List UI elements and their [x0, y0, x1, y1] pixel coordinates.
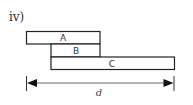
block-c-label: C [109, 59, 115, 69]
dimension-label: d [96, 87, 102, 98]
block-b: B [51, 44, 100, 57]
block-a: A [27, 32, 101, 45]
arrow-left-icon [27, 79, 37, 87]
block-b-label: B [73, 46, 79, 56]
block-diagram: A B C d [0, 0, 193, 105]
arrow-right-icon [164, 79, 174, 87]
dimension-d: d [27, 76, 175, 98]
block-c: C [51, 57, 175, 70]
block-a-label: A [60, 33, 67, 43]
